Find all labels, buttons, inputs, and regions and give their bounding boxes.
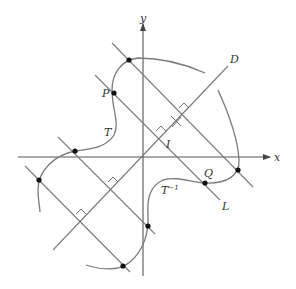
point-right	[235, 167, 240, 172]
label-d: D	[229, 53, 239, 66]
label-i: I	[165, 138, 171, 151]
label-q: Q	[204, 167, 213, 180]
label-l: L	[221, 200, 229, 213]
point-top	[126, 57, 131, 62]
point-p	[111, 90, 116, 95]
point-left	[36, 177, 41, 182]
right-angle-marks	[76, 103, 189, 214]
right-angle-mark-2	[156, 126, 166, 131]
curve-t	[38, 58, 205, 212]
y-axis-label: y	[139, 12, 147, 25]
x-axis-label: x	[274, 151, 281, 164]
right-angle-mark-4	[76, 209, 86, 214]
curve-t-inverse	[86, 90, 239, 269]
diagram-figure: x y D L I P T Q T−1	[0, 0, 296, 289]
axes: x y	[18, 12, 281, 276]
label-p: P	[101, 87, 110, 100]
right-angle-mark-3	[108, 177, 118, 182]
label-t-inverse: T−1	[161, 184, 179, 197]
point-q	[202, 180, 207, 185]
label-t: T	[104, 126, 113, 139]
right-angle-mark-1	[179, 103, 189, 108]
point-left-upper	[72, 148, 77, 153]
points	[36, 57, 240, 268]
point-lower	[145, 223, 150, 228]
label-t-inverse-sup: −1	[168, 184, 178, 192]
point-bottom	[120, 263, 125, 268]
